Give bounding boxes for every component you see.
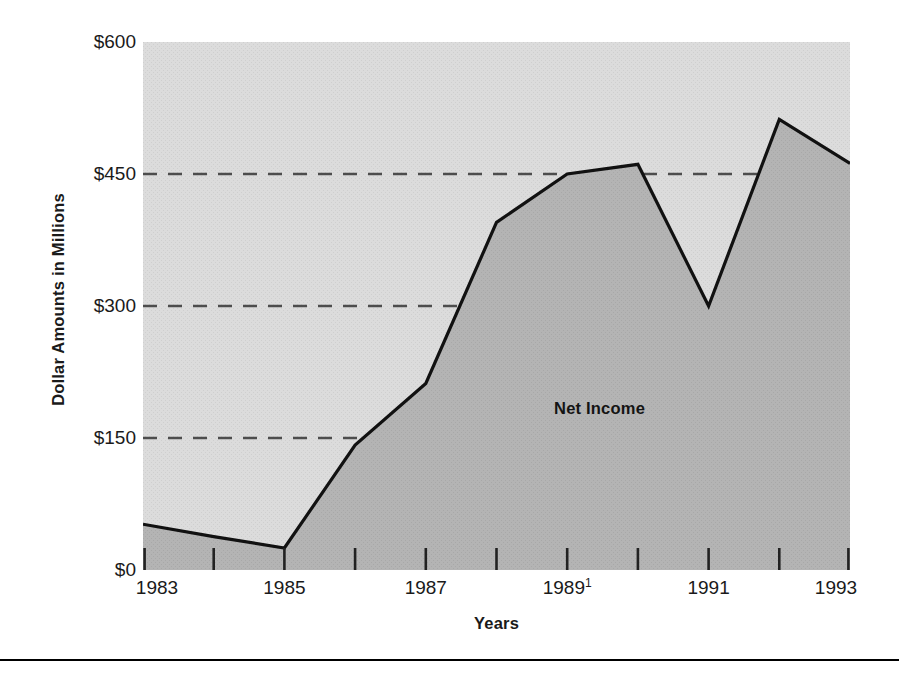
y-axis-tick-labels: $600$450$300$150$0 — [38, 0, 136, 692]
x-tick-label-text: 1987 — [405, 577, 447, 598]
x-tick-label: 19891 — [543, 578, 592, 597]
y-tick-label: $0 — [44, 560, 136, 579]
x-tick-label: 1993 — [815, 578, 857, 597]
y-tick-label: $450 — [44, 164, 136, 183]
x-axis-title: Years — [143, 614, 850, 633]
y-tick-label: $150 — [44, 428, 136, 447]
x-tick-label-text: 1993 — [815, 577, 857, 598]
bottom-divider-rule — [0, 659, 899, 661]
x-tick-label: 1983 — [136, 578, 178, 597]
y-tick-label: $600 — [44, 32, 136, 51]
chart-canvas — [143, 42, 850, 570]
x-tick-label: 1987 — [405, 578, 447, 597]
x-tick-label-text: 1989 — [543, 577, 585, 598]
plot-area: Net Income — [143, 42, 850, 570]
x-tick-footnote-marker: 1 — [585, 576, 592, 590]
x-tick-label-text: 1983 — [136, 577, 178, 598]
x-tick-label-text: 1991 — [687, 577, 729, 598]
x-tick-label-text: 1985 — [263, 577, 305, 598]
net-income-area-chart: Dollar Amounts in Millions $600$450$300$… — [0, 0, 899, 692]
series-annotation-net-income: Net Income — [554, 399, 645, 418]
x-tick-label: 1991 — [687, 578, 729, 597]
x-axis-tick-labels: 1983198519871989119911993 — [143, 578, 850, 608]
y-tick-label: $300 — [44, 296, 136, 315]
x-tick-label: 1985 — [263, 578, 305, 597]
